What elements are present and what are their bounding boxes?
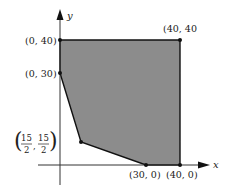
x-axis-arrow-icon [198,162,210,169]
x-axis-label: x [213,159,219,170]
feasible-region-diagram: y x (0, 40) (40, 40 (0, 30) (30, 0) (40,… [0,0,225,191]
label-0-30: (0, 30) [25,68,57,79]
label-30-0: (30, 0) [129,169,161,180]
frac1-numerator: 15 [21,133,32,143]
frac2-numerator: 15 [38,133,49,143]
vertex-0-30 [58,71,62,75]
label-comma: , [33,141,36,151]
y-axis-arrow-icon [57,9,64,20]
label-40-40: (40, 40 [163,23,197,34]
label-paren-close: ) [49,128,58,153]
frac1-denominator: 2 [24,145,29,155]
vertex-0-40 [58,38,62,42]
label-7.5-7.5: ( 15 2 , 15 2 ) [14,128,58,155]
vertex-40-40 [178,38,182,42]
frac2-denominator: 2 [41,145,46,155]
vertex-40-0 [178,163,182,167]
vertex-30-0 [144,163,148,167]
feasible-region [60,40,180,165]
label-40-0: (40, 0) [166,169,198,180]
label-0-40: (0, 40) [25,35,57,46]
y-axis-label: y [66,10,73,21]
vertex-7.5-7.5 [79,140,83,144]
